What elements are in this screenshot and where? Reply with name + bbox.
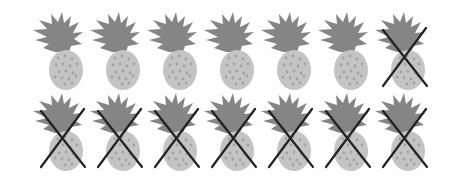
pineapple-icon xyxy=(141,93,201,169)
pineapple-icon xyxy=(198,12,258,88)
pineapple-icon xyxy=(369,93,429,169)
pineapple-icon-crossed xyxy=(255,93,315,169)
pineapple-icon-crossed xyxy=(369,93,429,169)
pineapple-icon xyxy=(312,12,372,88)
pineapple-icon xyxy=(141,12,201,88)
pineapple-icon xyxy=(84,12,144,88)
pineapple-icon-crossed xyxy=(198,93,258,169)
pineapple-icon-crossed xyxy=(312,93,372,169)
pineapple-figure: Two rows of pineapple icons; crossed-out… xyxy=(0,0,454,181)
pineapple-row-1 xyxy=(0,12,454,92)
pineapple-icon xyxy=(27,12,87,88)
pineapple-icon xyxy=(312,93,372,169)
pineapple-icon-crossed xyxy=(84,93,144,169)
pineapple-icon xyxy=(198,93,258,169)
pineapple-icon xyxy=(84,12,144,88)
pineapple-icon xyxy=(27,93,87,169)
pineapple-icon xyxy=(255,93,315,169)
pineapple-icon-crossed xyxy=(141,93,201,169)
pineapple-icon xyxy=(255,12,315,88)
pineapple-icon xyxy=(27,12,87,88)
pineapple-icon-crossed xyxy=(369,12,429,88)
pineapple-icon xyxy=(312,12,372,88)
pineapple-icon xyxy=(255,12,315,88)
pineapple-row-2 xyxy=(0,93,454,173)
pineapple-icon xyxy=(141,12,201,88)
figure-description: Two rows of pineapple icons; crossed-out… xyxy=(0,0,1,1)
pineapple-icon xyxy=(198,12,258,88)
pineapple-icon xyxy=(369,12,429,88)
pineapple-icon-crossed xyxy=(27,93,87,169)
pineapple-icon xyxy=(84,93,144,169)
